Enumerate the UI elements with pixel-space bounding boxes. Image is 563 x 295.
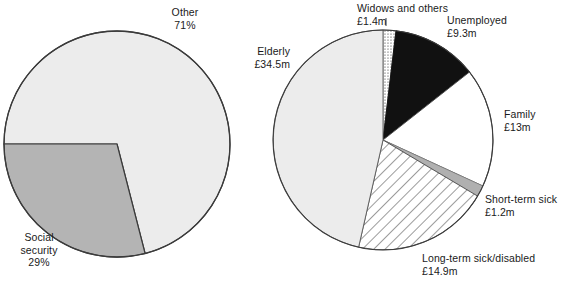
label-short-term-sick-value: £1.2m bbox=[485, 206, 557, 219]
label-short-term-sick-name: Short-term sick bbox=[485, 193, 557, 205]
label-social-security-line2: security bbox=[2, 244, 76, 257]
label-family-value: £13m bbox=[504, 121, 536, 134]
right-pie-group bbox=[273, 30, 493, 250]
label-family-name: Family bbox=[504, 108, 536, 120]
label-elderly: Elderly £34.5m bbox=[232, 45, 290, 70]
label-unemployed-name: Unemployed bbox=[447, 14, 507, 26]
label-widows-and-others: Widows and others £1.4m bbox=[357, 2, 448, 27]
label-social-security-line1: Social bbox=[24, 231, 53, 243]
label-social-security: Social security 29% bbox=[2, 231, 76, 269]
figure-canvas: Other 71% Social security 29% Widows and… bbox=[0, 0, 563, 295]
label-elderly-value: £34.5m bbox=[232, 58, 290, 71]
label-short-term-sick: Short-term sick £1.2m bbox=[485, 193, 557, 218]
label-elderly-name: Elderly bbox=[257, 45, 290, 57]
label-widows-and-others-value: £1.4m bbox=[357, 15, 448, 28]
left-pie-group bbox=[4, 31, 230, 257]
label-other-name: Other bbox=[172, 6, 199, 18]
label-long-term-sick-disabled-value: £14.9m bbox=[422, 265, 535, 278]
label-family: Family £13m bbox=[504, 108, 536, 133]
label-social-security-value: 29% bbox=[2, 256, 76, 269]
label-other-value: 71% bbox=[155, 19, 215, 32]
label-widows-and-others-name: Widows and others bbox=[357, 2, 448, 14]
label-long-term-sick-disabled-name: Long-term sick/disabled bbox=[422, 252, 535, 264]
label-other: Other 71% bbox=[155, 6, 215, 31]
label-unemployed-value: £9.3m bbox=[447, 27, 507, 40]
label-unemployed: Unemployed £9.3m bbox=[447, 14, 507, 39]
label-long-term-sick-disabled: Long-term sick/disabled £14.9m bbox=[422, 252, 535, 277]
